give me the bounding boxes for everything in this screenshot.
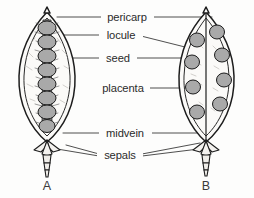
seed-b-right-4 [213,97,228,111]
seed-a-2 [38,35,56,49]
seed-b-right-1 [210,25,225,39]
label-midvein: midvein [106,127,144,139]
seed-b-left-4 [190,105,205,119]
diagram-canvas: A [0,0,254,198]
caption-a: A [43,179,52,193]
sepals-b [193,140,219,156]
pedicel-a-lower [44,163,50,170]
sepals-a [34,140,60,156]
seed-a-8 [39,120,55,133]
seed-b-left-1 [190,33,205,47]
seed-b-left-2 [185,55,200,69]
label-placenta: placenta [102,82,144,94]
seed-a-5 [38,77,56,91]
pedicel-b-tip [204,170,208,176]
seed-a-3 [38,49,56,63]
pedicel-a [43,155,51,177]
pedicel-b-upper [202,155,210,163]
seed-a-1 [38,21,56,35]
label-pericarp: pericarp [107,11,147,23]
label-text-group: pericarp locule seed placenta midvein se… [96,9,154,163]
seed-a-4 [38,63,56,77]
apex-a [44,7,50,13]
seed-a-7 [38,105,56,119]
label-locule: locule [107,29,136,41]
seed-b-right-2 [215,48,230,62]
seed-b-left-3 [186,80,201,94]
apex-b [203,7,209,13]
fruit-diagram-figure: A [0,0,254,198]
label-seed: seed [106,52,130,64]
pedicel-a-upper [43,155,51,163]
leader-sepals-left-upper [66,145,99,154]
pedicel-a-tip [45,170,49,177]
pedicel-b-lower [203,163,209,170]
specimen-b: B [179,7,234,193]
caption-b: B [202,179,210,193]
pedicel-b [202,155,210,176]
label-sepals: sepals [104,149,136,161]
seed-b-right-3 [217,73,232,87]
seed-a-6 [38,91,56,105]
